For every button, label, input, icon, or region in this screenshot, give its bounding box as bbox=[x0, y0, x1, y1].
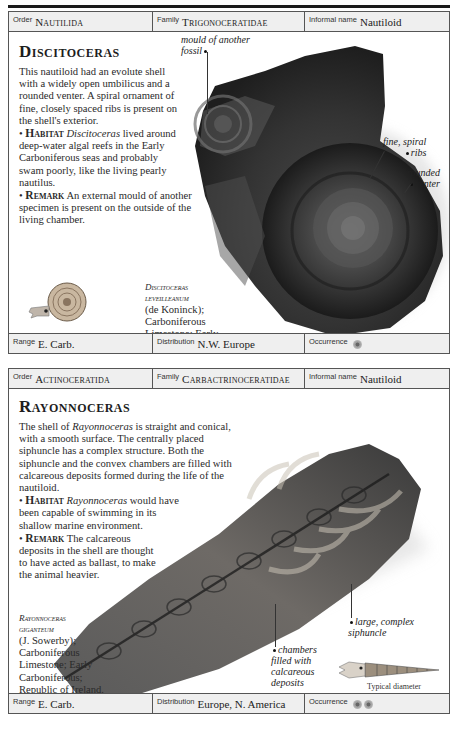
order-value: Actinoceratida bbox=[35, 373, 110, 385]
informal-name-label: Informal name bbox=[309, 15, 357, 24]
species-info: Rayonnoceras giganteum (J. Sowerby); Car… bbox=[19, 613, 129, 693]
callout-line2: filled with bbox=[271, 655, 317, 666]
range-bar: Range E. Carb. Distribution Europe, N. A… bbox=[9, 693, 449, 713]
informal-name-cell: Informal name Nautiloid bbox=[305, 369, 449, 388]
callout-line2: fossil bbox=[181, 45, 202, 56]
species-line2: Limestone; Early bbox=[19, 659, 129, 671]
entry-body: Discitoceras This nautiloid had an evolu… bbox=[9, 32, 449, 333]
range-cell: Range E. Carb. bbox=[9, 694, 153, 713]
callout-line2: siphuncle bbox=[348, 627, 414, 638]
occurrence-icon bbox=[353, 340, 362, 349]
callout-line1: large, complex bbox=[355, 616, 414, 627]
leader-dot bbox=[273, 649, 276, 652]
species-name-line2: leveilleanum bbox=[145, 293, 245, 304]
species-name-line2: giganteum bbox=[19, 624, 129, 635]
species-title: Rayonnoceras bbox=[19, 397, 130, 417]
informal-name-label: Informal name bbox=[309, 372, 357, 381]
occurrence-label: Occurrence bbox=[309, 697, 348, 706]
caption-line1: Typical diameter bbox=[359, 682, 429, 692]
family-label: Family bbox=[157, 372, 179, 381]
habitat-genus: Discitoceras bbox=[66, 128, 120, 139]
order-label: Order bbox=[13, 15, 32, 24]
occurrence-cell: Occurrence bbox=[305, 334, 449, 353]
family-value: Trigonoceratidae bbox=[182, 16, 267, 28]
range-value: E. Carb. bbox=[38, 338, 74, 350]
species-line1: Carboniferous bbox=[19, 647, 129, 659]
distribution-value: N.W. Europe bbox=[198, 338, 255, 350]
species-name-line1: Rayonnoceras bbox=[19, 613, 129, 624]
remark-label: Remark bbox=[25, 532, 64, 544]
family-cell: Family Trigonoceratidae bbox=[153, 12, 305, 31]
informal-name-cell: Informal name Nautiloid bbox=[305, 12, 449, 31]
distribution-label: Distribution bbox=[157, 337, 195, 346]
habitat-label: Habitat bbox=[25, 127, 63, 139]
occurrence-cell: Occurrence bbox=[305, 694, 449, 713]
leader-line bbox=[275, 604, 276, 647]
informal-name-value: Nautiloid bbox=[360, 16, 402, 28]
callout-line2-wrap: fossil bbox=[181, 45, 250, 56]
description-text: This nautiloid had an evolute shell with… bbox=[19, 66, 184, 127]
entry-discitoceras: Order Nautilida Family Trigonoceratidae … bbox=[8, 11, 450, 354]
callout-line1-wrap: large, complex bbox=[348, 616, 414, 627]
callout-line1-wrap: chambers bbox=[271, 644, 317, 655]
order-cell: Order Nautilida bbox=[9, 12, 153, 31]
habitat-paragraph: • Habitat Rayonnoceras would have been c… bbox=[19, 494, 184, 532]
entry-rayonnoceras: Order Actinoceratida Family Carbactrinoc… bbox=[8, 368, 450, 714]
remark-label: Remark bbox=[25, 189, 64, 201]
range-bar: Range E. Carb. Distribution N.W. Europe … bbox=[9, 333, 449, 353]
order-cell: Order Actinoceratida bbox=[9, 369, 153, 388]
distribution-value: Europe, N. America bbox=[198, 698, 286, 710]
species-info: Discitoceras leveilleanum (de Koninck); … bbox=[145, 282, 245, 333]
classification-bar: Order Actinoceratida Family Carbactrinoc… bbox=[9, 369, 449, 389]
callout-line2-wrap: ribs bbox=[383, 147, 426, 158]
callout-fine-spiral-ribs: fine, spiral ribs bbox=[383, 136, 426, 158]
description-genus: Rayonnoceras bbox=[72, 421, 133, 432]
family-label: Family bbox=[157, 15, 179, 24]
habitat-paragraph: • Habitat Discitoceras lived around deep… bbox=[19, 127, 184, 189]
occurrence-icon bbox=[364, 700, 373, 709]
remark-paragraph: • Remark An external mould of another sp… bbox=[19, 189, 209, 227]
species-author: (de Koninck); bbox=[145, 304, 245, 316]
leader-dot bbox=[406, 152, 409, 155]
callout-mould-of-another-fossil: mould of another fossil bbox=[181, 34, 250, 56]
range-cell: Range E. Carb. bbox=[9, 334, 153, 353]
species-line3: Carboniferous; bbox=[19, 672, 129, 684]
species-line4: Republic of Ireland. bbox=[19, 684, 129, 693]
species-description: The shell of Rayonnoceras is straight an… bbox=[19, 421, 244, 582]
range-label: Range bbox=[13, 697, 35, 706]
remark-paragraph: • Remark The calcareous deposits in the … bbox=[19, 532, 159, 582]
callout-line2-wrap: venter bbox=[407, 178, 440, 189]
classification-bar: Order Nautilida Family Trigonoceratidae … bbox=[9, 12, 449, 32]
habitat-genus: Rayonnoceras bbox=[66, 495, 127, 506]
callout-line2: ribs bbox=[411, 147, 427, 158]
distribution-cell: Distribution Europe, N. America bbox=[153, 694, 305, 713]
top-rule bbox=[8, 5, 450, 8]
leader-line bbox=[351, 584, 352, 618]
callout-line1: chambers bbox=[278, 644, 317, 655]
distribution-label: Distribution bbox=[157, 697, 195, 706]
callout-large-complex-siphuncle: large, complex siphuncle bbox=[348, 616, 414, 638]
callout-line4: deposits bbox=[271, 677, 317, 688]
illustration-caption: Typical diameter 20cm (8in) bbox=[359, 682, 429, 693]
leader-line bbox=[207, 52, 208, 114]
callout-chambers-filled: chambers filled with calcareous deposits bbox=[271, 644, 317, 688]
species-line1: Carboniferous bbox=[145, 316, 245, 328]
occurrence-icon bbox=[353, 700, 362, 709]
species-description: This nautiloid had an evolute shell with… bbox=[19, 66, 184, 227]
callout-line3: calcareous bbox=[271, 666, 317, 677]
range-label: Range bbox=[13, 337, 35, 346]
species-author: (J. Sowerby); bbox=[19, 635, 129, 647]
callout-line2: venter bbox=[415, 178, 440, 189]
occurrence-label: Occurrence bbox=[309, 337, 348, 346]
callout-line1: fine, spiral bbox=[383, 136, 426, 147]
order-value: Nautilida bbox=[35, 16, 83, 28]
species-title: Discitoceras bbox=[19, 42, 120, 62]
nautilus-illustration bbox=[27, 282, 92, 332]
orthocone-illustration bbox=[337, 659, 442, 681]
order-label: Order bbox=[13, 372, 32, 381]
callout-rounded-venter: rounded venter bbox=[407, 167, 440, 189]
informal-name-value: Nautiloid bbox=[360, 373, 402, 385]
species-name-line1: Discitoceras bbox=[145, 282, 245, 293]
range-value: E. Carb. bbox=[38, 698, 74, 710]
callout-line1: mould of another bbox=[181, 34, 250, 45]
